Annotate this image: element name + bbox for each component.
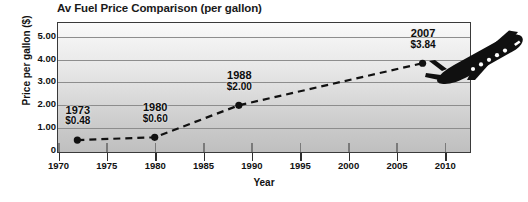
x-tick-inner-mark [203, 143, 205, 152]
x-tick-inner-mark [58, 143, 60, 152]
data-point-marker [419, 60, 426, 67]
x-tick-inner-mark [155, 143, 157, 152]
x-tick-label: 1970 [36, 160, 82, 171]
x-tick-inner-mark [251, 143, 253, 152]
x-tick-label: 1985 [181, 160, 227, 171]
x-tick-label: 1980 [132, 160, 178, 171]
y-tick-label: 5.00 [22, 30, 56, 41]
x-tick-label: 2005 [374, 160, 420, 171]
y-axis-label: Price per gallon ($) [21, 0, 32, 131]
y-tick-label: 4.00 [22, 53, 56, 64]
x-tick-inner-mark [396, 143, 398, 152]
chart-container: Av Fuel Price Comparison (per gallon) Pr… [0, 0, 528, 202]
x-tick-inner-mark [348, 143, 350, 152]
data-point-marker [235, 102, 242, 109]
chart-title: Av Fuel Price Comparison (per gallon) [57, 2, 262, 14]
x-tick-label: 1995 [277, 160, 323, 171]
y-tick-label: 0 [22, 144, 56, 155]
data-point-marker [74, 136, 81, 143]
data-series-svg [58, 23, 469, 151]
y-tick-label: 3.00 [22, 75, 56, 86]
series-line [77, 63, 422, 140]
y-tick-label: 1.00 [22, 121, 56, 132]
x-tick-label: 2010 [422, 160, 468, 171]
x-tick-label: 1975 [84, 160, 130, 171]
x-tick-inner-mark [300, 143, 302, 152]
plot-area [57, 22, 471, 153]
x-axis-label: Year [57, 177, 471, 188]
x-tick-inner-mark [106, 143, 108, 152]
x-tick-label: 2000 [326, 160, 372, 171]
data-point-marker [151, 134, 158, 141]
y-tick-label: 2.00 [22, 98, 56, 109]
x-tick-label: 1990 [229, 160, 275, 171]
x-tick-inner-mark [445, 143, 447, 152]
